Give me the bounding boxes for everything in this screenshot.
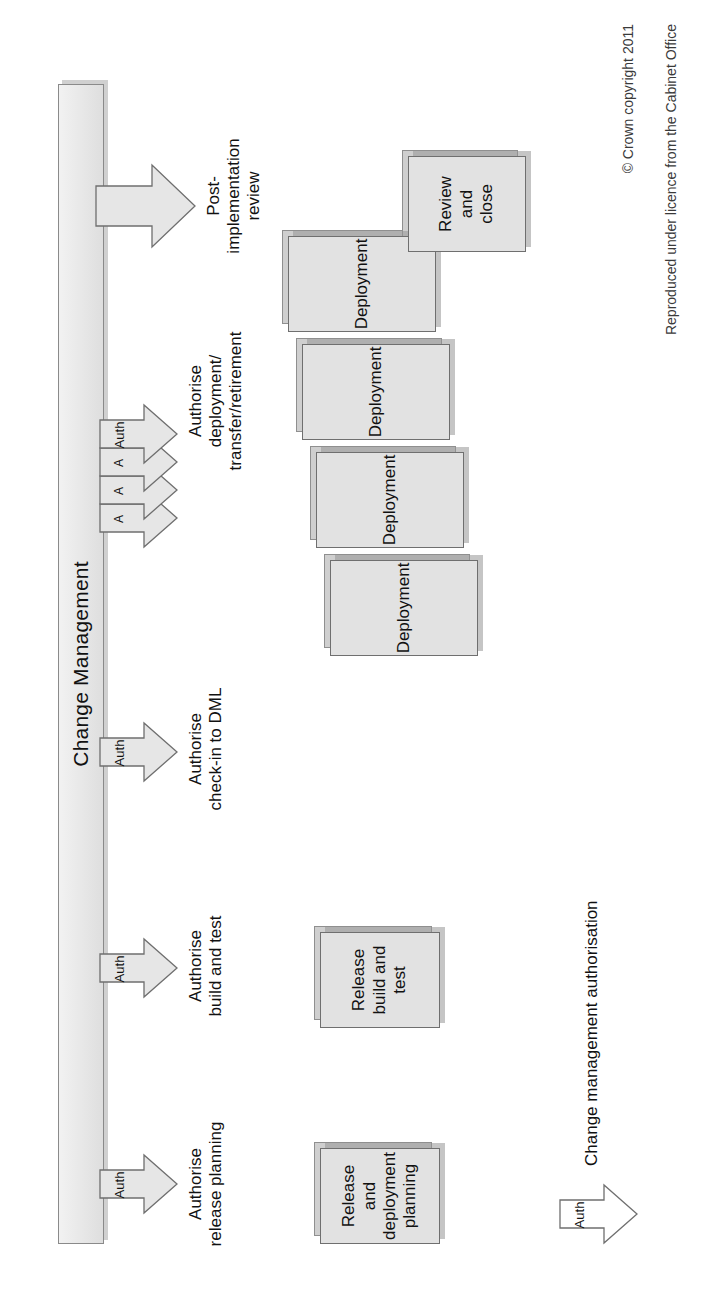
copyright-line-1: © Crown copyright 2011 — [618, 24, 640, 644]
auth-arrow-authorise-deployment[interactable]: Auth — [100, 404, 178, 464]
auth-arrow-post-implementation-review[interactable] — [96, 164, 196, 248]
stage-box-label: Release build and test — [349, 946, 410, 1015]
auth-arrow-authorise-release-planning[interactable]: Auth — [100, 1154, 178, 1214]
change-management-lane-title: Change Management — [59, 85, 103, 1243]
stage-box-label: Deployment — [366, 347, 386, 438]
copyright-line-2: Reproduced under licence from the Cabine… — [661, 24, 683, 644]
stage-box-label: Release and deployment planning — [339, 1149, 421, 1243]
legend-auth-arrow-icon: Auth — [560, 1184, 638, 1244]
diagram-canvas: Change Management Auth Authorise release… — [0, 0, 702, 1306]
auth-arrow-authorise-build-and-test[interactable]: Auth — [100, 938, 178, 998]
stage-box-label: Review and close — [436, 176, 497, 232]
stage-box-release-build-and-test[interactable]: Release build and test — [320, 932, 440, 1028]
stage-box-release-and-deployment-planning[interactable]: Release and deployment planning — [320, 1148, 440, 1244]
caption-authorise-check-in-to-dml-text: Authorise check-in to DML — [186, 654, 226, 844]
caption-authorise-deployment: Authorise deployment/ transfer/retiremen… — [186, 286, 246, 516]
caption-authorise-build-and-test: Authorise build and test — [186, 876, 226, 1056]
stage-box-review-and-close[interactable]: Review and close — [408, 156, 526, 252]
caption-post-implementation-review: Post- implementation review — [204, 106, 264, 286]
legend-description: Change management authorisation — [582, 900, 602, 1166]
caption-authorise-release-planning: Authorise release planning — [186, 1094, 226, 1274]
stage-box-label: Deployment — [380, 455, 400, 546]
auth-arrow-authorise-check-in-to-dml[interactable]: Auth — [100, 722, 178, 782]
stage-box-deployment-1[interactable]: Deployment — [330, 560, 478, 656]
change-management-lane: Change Management — [58, 84, 104, 1244]
stage-box-label: Deployment — [352, 239, 372, 330]
stage-box-label: Deployment — [394, 563, 414, 654]
stage-box-deployment-2[interactable]: Deployment — [316, 452, 464, 548]
copyright-block: © Crown copyright 2011 Reproduced under … — [596, 24, 702, 644]
stage-box-deployment-3[interactable]: Deployment — [302, 344, 450, 440]
